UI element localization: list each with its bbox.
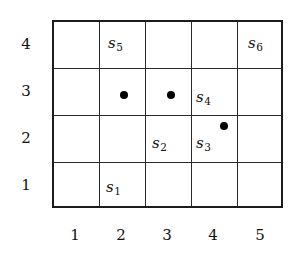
grid-vertical-line-3	[191, 22, 192, 206]
cell-label-s2: s2	[152, 136, 166, 151]
grid-horizontal-line-3	[54, 162, 281, 163]
grid-horizontal-line-1	[54, 68, 281, 69]
data-point-dot	[120, 91, 128, 99]
grid-vertical-line-4	[237, 22, 238, 206]
cell-label-s5-base: s	[108, 34, 116, 52]
cell-label-s1: s1	[106, 180, 120, 195]
y-axis-tick-3: 3	[16, 84, 36, 99]
cell-label-s6-base: s	[248, 34, 256, 52]
y-axis-tick-2: 2	[16, 131, 36, 146]
grid-diagram: s5 s6 s4 s2 s3 s1 4 3 2 1 1 2 3 4 5	[0, 0, 301, 263]
cell-label-s4-base: s	[196, 88, 204, 106]
cell-label-s2-sub: 2	[160, 141, 167, 153]
x-axis-tick-1: 1	[65, 228, 85, 243]
cell-label-s4-sub: 4	[204, 95, 211, 107]
cell-label-s1-sub: 1	[114, 185, 121, 197]
y-axis-tick-1: 1	[16, 178, 36, 193]
cell-label-s1-base: s	[106, 178, 114, 196]
cell-label-s3: s3	[196, 136, 210, 151]
cell-label-s6-sub: 6	[256, 41, 263, 53]
grid-vertical-line-2	[145, 22, 146, 206]
data-point-dot	[167, 91, 175, 99]
cell-label-s5-sub: 5	[116, 41, 123, 53]
x-axis-tick-2: 2	[111, 228, 131, 243]
cell-label-s3-base: s	[196, 134, 204, 152]
cell-label-s2-base: s	[152, 134, 160, 152]
x-axis-tick-4: 4	[203, 228, 223, 243]
cell-label-s5: s5	[108, 36, 122, 51]
y-axis-tick-4: 4	[16, 37, 36, 52]
x-axis-tick-3: 3	[157, 228, 177, 243]
cell-label-s4: s4	[196, 90, 210, 105]
grid-horizontal-line-2	[54, 115, 281, 116]
data-point-dot	[220, 122, 228, 130]
grid-vertical-line-1	[99, 22, 100, 206]
cell-label-s6: s6	[248, 36, 262, 51]
cell-label-s3-sub: 3	[204, 141, 211, 153]
x-axis-tick-5: 5	[250, 228, 270, 243]
